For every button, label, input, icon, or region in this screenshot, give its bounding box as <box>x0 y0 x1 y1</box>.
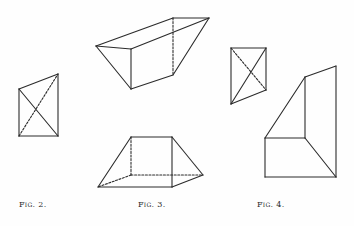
visible-edge <box>231 48 266 104</box>
visible-edge <box>98 137 131 187</box>
fig3-bottom-drawing <box>98 137 203 187</box>
hidden-edge <box>231 48 266 90</box>
visible-edge <box>96 46 131 89</box>
caption-fig-4: Fig. 4. <box>257 200 285 209</box>
caption-fig-2: Fig. 2. <box>19 200 47 209</box>
caption-fig-3: Fig. 3. <box>138 200 166 209</box>
visible-edge <box>231 90 266 104</box>
visible-edge <box>305 66 336 77</box>
figure-plate: Fig. 2. Fig. 3. Fig. 4. <box>0 0 354 226</box>
fig4-large-drawing <box>265 66 336 177</box>
visible-edge <box>96 18 173 46</box>
hidden-edge <box>19 74 58 136</box>
visible-edge <box>131 18 209 49</box>
visible-edge <box>19 74 58 89</box>
geometric-figures-canvas <box>0 0 354 226</box>
fig4-small-drawing <box>231 48 266 104</box>
visible-edge <box>265 77 305 138</box>
visible-edge <box>172 175 203 187</box>
hidden-edge <box>98 175 131 187</box>
visible-edge <box>19 89 58 136</box>
visible-edge <box>96 46 131 49</box>
fig3-top-drawing <box>96 18 209 89</box>
visible-edge <box>131 75 173 89</box>
visible-edge <box>305 138 336 177</box>
visible-edge <box>172 137 203 175</box>
visible-edge <box>173 18 209 75</box>
fig2-drawing <box>19 74 58 136</box>
